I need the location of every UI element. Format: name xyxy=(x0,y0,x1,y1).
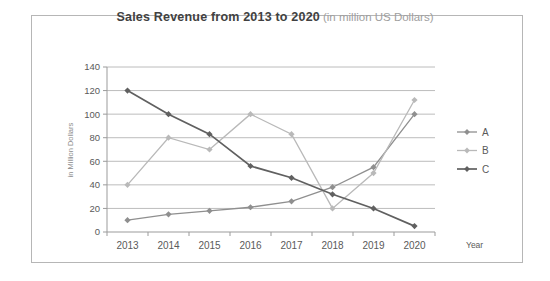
x-tick-label-2019: 2019 xyxy=(362,240,385,251)
series-line-C xyxy=(128,91,415,227)
x-axis-title: Year xyxy=(466,240,483,250)
y-tick-label-20: 20 xyxy=(89,203,100,214)
legend-marker-B xyxy=(464,148,470,154)
legend-label-A: A xyxy=(482,127,489,138)
y-tick-label-120: 120 xyxy=(84,85,100,96)
x-tick-label-2016: 2016 xyxy=(239,240,262,251)
y-tick-label-80: 80 xyxy=(89,132,100,143)
data-point-B-2017 xyxy=(288,131,294,137)
x-tick-label-2018: 2018 xyxy=(321,240,344,251)
legend-label-B: B xyxy=(482,145,489,156)
x-tick-label-2020: 2020 xyxy=(403,240,426,251)
x-tick-label-2013: 2013 xyxy=(116,240,139,251)
y-tick-label-60: 60 xyxy=(89,156,100,167)
x-tick-label-2014: 2014 xyxy=(157,240,180,251)
data-point-A-2016 xyxy=(247,204,253,210)
line-chart: 0204060801001201402013201420152016201720… xyxy=(0,0,550,281)
legend-marker-C xyxy=(464,166,470,172)
data-point-A-2013 xyxy=(124,217,130,223)
data-point-C-2017 xyxy=(288,175,294,181)
data-point-A-2017 xyxy=(288,198,294,204)
series-line-B xyxy=(128,100,415,208)
y-tick-label-0: 0 xyxy=(95,226,100,237)
x-tick-label-2017: 2017 xyxy=(280,240,303,251)
x-tick-label-2015: 2015 xyxy=(198,240,221,251)
data-point-C-2018 xyxy=(329,191,335,197)
y-tick-label-100: 100 xyxy=(84,109,100,120)
y-tick-label-140: 140 xyxy=(84,61,100,72)
y-tick-label-40: 40 xyxy=(89,179,100,190)
legend-label-C: C xyxy=(482,164,489,175)
data-point-C-2020 xyxy=(411,223,417,229)
data-point-A-2014 xyxy=(165,211,171,217)
data-point-B-2020 xyxy=(411,97,417,103)
y-axis-title: in Million Dollars xyxy=(66,122,75,177)
legend-marker-A xyxy=(464,129,470,135)
chart-image: Sales Revenue from 2013 to 2020(in milli… xyxy=(0,0,550,281)
data-point-C-2019 xyxy=(370,205,376,211)
